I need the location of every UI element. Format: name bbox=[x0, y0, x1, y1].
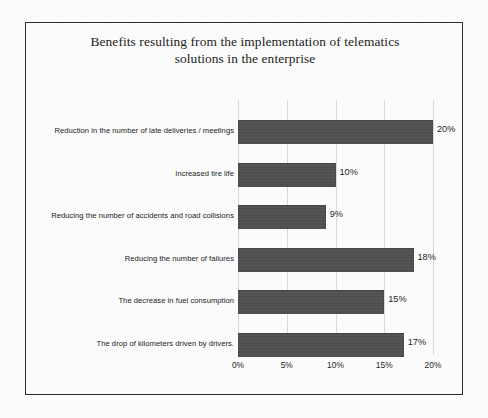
x-axis-tick-labels: 0%5%10%15%20% bbox=[238, 360, 433, 374]
category-label: Reducing the number of failures bbox=[22, 254, 234, 263]
bar-row: 18% bbox=[238, 239, 433, 282]
chart-title-line-2: solutions in the enterprise bbox=[50, 50, 440, 67]
category-label: Increased tire life bbox=[22, 169, 234, 178]
bar-row: 10% bbox=[238, 154, 433, 197]
category-label: Reducing the number of accidents and roa… bbox=[22, 211, 234, 220]
x-tick-label: 20% bbox=[425, 360, 442, 370]
bar[interactable] bbox=[238, 205, 326, 229]
bar-value-label: 15% bbox=[388, 294, 406, 304]
category-label: The decrease in fuel consumption bbox=[22, 296, 234, 305]
bar[interactable] bbox=[238, 163, 336, 187]
bar-value-label: 18% bbox=[418, 252, 436, 262]
plot-area: 20%10%9%18%15%17% bbox=[238, 100, 433, 355]
category-label: Reduction in the number of late deliveri… bbox=[22, 126, 234, 135]
gridline-20 bbox=[433, 100, 434, 355]
bar-row: 9% bbox=[238, 196, 433, 239]
bar-value-label: 9% bbox=[330, 209, 343, 219]
category-axis-labels: Reduction in the number of late deliveri… bbox=[22, 100, 234, 355]
bar[interactable] bbox=[238, 333, 404, 357]
bar[interactable] bbox=[238, 290, 384, 314]
bar[interactable] bbox=[238, 120, 433, 144]
bar-row: 15% bbox=[238, 281, 433, 324]
chart-title-line-1: Benefits resulting from the implementati… bbox=[50, 33, 440, 50]
x-tick-label: 15% bbox=[376, 360, 393, 370]
bar[interactable] bbox=[238, 248, 414, 272]
chart-title: Benefits resulting from the implementati… bbox=[50, 33, 440, 67]
x-tick-label: 10% bbox=[327, 360, 344, 370]
bar-value-label: 17% bbox=[408, 337, 426, 347]
x-tick-label: 0% bbox=[232, 360, 244, 370]
bar-row: 20% bbox=[238, 111, 433, 154]
x-tick-label: 5% bbox=[281, 360, 293, 370]
bar-value-label: 10% bbox=[340, 167, 358, 177]
category-label: The drop of kilometers driven by drivers… bbox=[22, 339, 234, 348]
bar-value-label: 20% bbox=[437, 124, 455, 134]
